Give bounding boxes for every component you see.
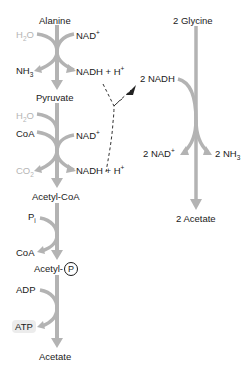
- arrowhead-acetate: [51, 338, 63, 348]
- reactant-nad-2: NAD+: [76, 130, 100, 141]
- product-2-nad: 2 NAD+: [143, 148, 175, 159]
- metabolite-2-glycine: 2 Glycine: [173, 15, 213, 26]
- step3-side-arrows: [37, 218, 57, 254]
- product-nadh-2: NADH + H+: [76, 165, 124, 176]
- product-coa: CoA: [16, 247, 34, 258]
- metabolite-acetyl-phosphate: Acetyl-P: [34, 262, 78, 276]
- right-main-arrows: [178, 26, 212, 210]
- metabolite-acetate: Acetate: [39, 351, 71, 362]
- arrowhead-pyruvate: [51, 80, 63, 90]
- arrowhead-acetylp: [51, 250, 63, 260]
- pathway-diagram: [0, 0, 251, 375]
- product-co2: CO2: [16, 165, 34, 176]
- reactant-nad-1: NAD+: [76, 30, 100, 41]
- phosphate-circle-icon: P: [64, 262, 78, 276]
- reactant-adp: ADP: [16, 284, 36, 295]
- metabolite-alanine: Alanine: [39, 15, 71, 26]
- product-atp: ATP: [12, 321, 36, 332]
- reactant-pi: Pi: [28, 211, 36, 222]
- reactant-h2o-2: H2O: [16, 110, 34, 121]
- left-main-arrows: [51, 25, 63, 348]
- reactant-coa-1: CoA: [16, 128, 34, 139]
- reactant-2-nadh: 2 NADH: [140, 73, 175, 84]
- product-nh3: NH3: [16, 65, 33, 76]
- nadh-transfer-arrow: [103, 84, 136, 172]
- step4-side-arrows: [37, 290, 57, 329]
- metabolite-2-acetate: 2 Acetate: [176, 213, 216, 224]
- product-nadh-1: NADH + H+: [76, 66, 124, 77]
- metabolite-acetyl-coa: Acetyl-CoA: [32, 191, 80, 202]
- arrowhead-dark: [126, 85, 136, 95]
- arrowhead-acetylcoa: [51, 178, 63, 188]
- reactant-h2o-1: H2O: [16, 29, 34, 40]
- product-2-nh3: 2 NH3: [215, 148, 240, 159]
- metabolite-pyruvate: Pyruvate: [36, 92, 74, 103]
